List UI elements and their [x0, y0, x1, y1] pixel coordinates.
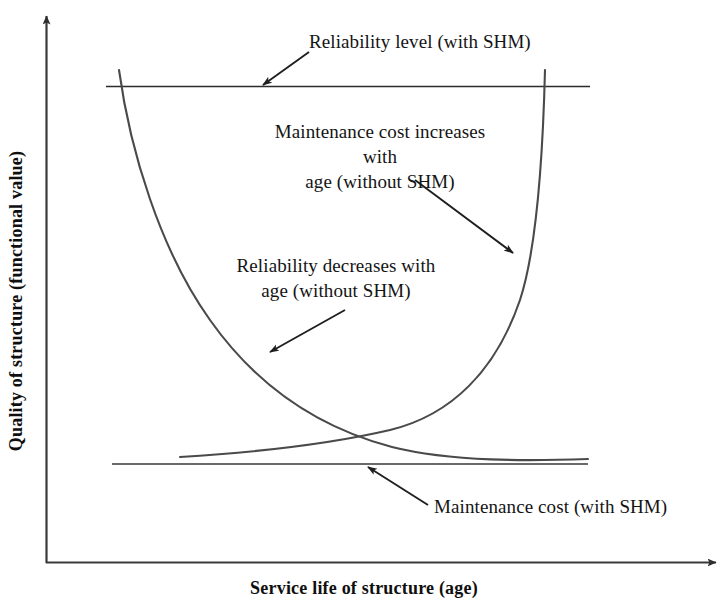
leader-arrow-reliability-level — [263, 52, 309, 85]
annotation-maintenance-cost-increase: Maintenance cost increases with age (wit… — [262, 119, 498, 194]
annotation-reliability-decrease-line2: age (without SHM) — [221, 278, 451, 303]
leader-arrow-reliability-decrease — [270, 310, 345, 352]
annotation-maintenance-cost-with-shm: Maintenance cost (with SHM) — [434, 494, 667, 519]
annotation-maintenance-cost-increase-line1: Maintenance cost increases with — [262, 119, 498, 169]
annotation-maintenance-cost-increase-line2: age (without SHM) — [262, 169, 498, 194]
annotation-reliability-decrease: Reliability decreases with age (without … — [221, 253, 451, 303]
y-axis-title: Quality of structure (functional value) — [0, 0, 32, 602]
annotation-reliability-decrease-line1: Reliability decreases with — [221, 253, 451, 278]
annotation-reliability-level: Reliability level (with SHM) — [309, 29, 531, 54]
leader-arrow-maintenance-with-shm — [368, 467, 428, 505]
figure-container: Reliability level (with SHM) Maintenance… — [0, 0, 728, 602]
x-axis-title: Service life of structure (age) — [0, 578, 728, 599]
